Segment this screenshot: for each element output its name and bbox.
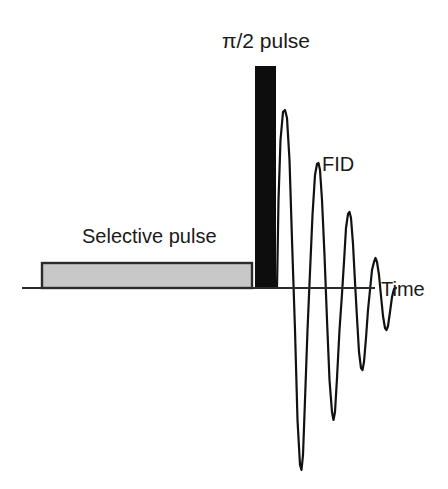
selective-pulse-label: Selective pulse	[82, 226, 217, 246]
hard-pulse-label: π/2 pulse	[0, 30, 448, 51]
selective-pulse-rect	[42, 263, 252, 288]
hard-pulse-rect	[255, 66, 276, 288]
pulse-sequence-figure: π/2 pulse Selective pulse FID Time	[0, 0, 448, 489]
fid-label: FID	[322, 154, 354, 174]
pulse-sequence-drawing	[0, 0, 448, 489]
hard-pulse-label-text: π/2 pulse	[222, 29, 310, 52]
time-axis-label: Time	[381, 279, 425, 299]
